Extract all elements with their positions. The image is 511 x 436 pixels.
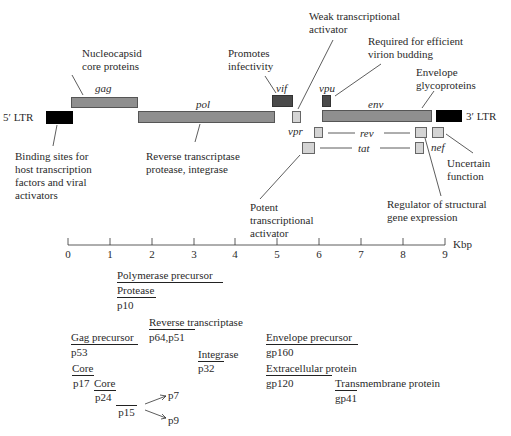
tick-6: 6 [313, 248, 325, 260]
envelope-precursor: Envelope precursor [266, 331, 358, 345]
tat-annotation: Potenttranscriptionalactivator [250, 201, 314, 240]
vpr-label: vpr [288, 125, 303, 138]
gp41: gp41 [335, 392, 357, 405]
vpr-annotation: Weak transcriptionalactivator [309, 10, 400, 36]
gp160: gp160 [266, 346, 294, 359]
pol-gene-box [138, 111, 275, 123]
core-p24-label: Core [94, 377, 116, 391]
tick-5: 5 [271, 248, 283, 260]
transmembrane-protein: Transmembrane protein [335, 377, 357, 391]
tick-8: 8 [397, 248, 409, 260]
tat-exon1-box [302, 142, 315, 154]
gag-label: gag [95, 82, 112, 95]
nef-label: nef [431, 141, 444, 154]
tat-exon2-box [415, 142, 424, 154]
p53: p53 [71, 346, 88, 359]
ltr5-box [46, 111, 73, 124]
p7: p7 [168, 389, 179, 402]
rev-exon2-box [415, 127, 427, 138]
tick-2: 2 [146, 248, 158, 260]
rev-label: rev [360, 127, 374, 140]
ltr3-box [436, 110, 462, 122]
p32: p32 [198, 362, 215, 375]
env-annotation: Envelopeglycoproteins [416, 66, 476, 92]
vpu-gene-box [322, 95, 331, 107]
gp120: gp120 [266, 377, 294, 390]
p10: p10 [117, 299, 134, 312]
vif-annotation: Promotesinfectivity [228, 47, 273, 73]
pol-label: pol [196, 98, 210, 111]
ltr3-label: 3′ LTR [466, 110, 496, 123]
nef-annotation: Uncertainfunction [447, 157, 490, 183]
rev-exon1-box [314, 127, 323, 138]
vif-label: vif [276, 82, 287, 95]
tick-4: 4 [229, 248, 241, 260]
p64-p51: p64,p51 [149, 331, 185, 344]
ltr-annotation: Binding sites forhost transcription fact… [15, 150, 92, 202]
tick-9: 9 [439, 248, 451, 260]
extracellular-protein: Extracellular protein [266, 362, 332, 376]
vpu-annotation: Required for efficientvirion budding [368, 35, 463, 61]
rev-annotation: Regulator of structuralgene expression [387, 198, 487, 224]
nef-gene-box [432, 127, 444, 138]
tick-1: 1 [104, 248, 116, 260]
p17: p17 [73, 377, 90, 390]
tick-7: 7 [355, 248, 367, 260]
axis-unit: Kbp [453, 238, 472, 251]
reverse-transcriptase: Reverse transcriptase [149, 316, 195, 330]
vif-gene-box [272, 95, 293, 107]
p9: p9 [168, 414, 179, 427]
gag-annotation: Nucleocapsidcore proteins [82, 47, 142, 73]
core-p17-label: Core [72, 362, 94, 376]
integrase: Integrase [198, 348, 224, 362]
env-gene-box [322, 110, 432, 122]
polymerase-precursor: Polymerase precursor [117, 269, 223, 283]
p24: p24 [95, 391, 112, 404]
gag-gene-box [71, 97, 138, 108]
gag-precursor: Gag precursor [71, 331, 138, 345]
tick-0: 0 [62, 248, 74, 260]
p15: p15 [116, 405, 137, 419]
protease: Protease [117, 284, 156, 298]
pol-annotation: Reverse transcriptaseprotease, integrase [146, 150, 240, 176]
vpr-gene-box [292, 111, 301, 123]
ltr5-label: 5′ LTR [3, 111, 33, 124]
tick-3: 3 [188, 248, 200, 260]
tat-label: tat [358, 142, 370, 155]
vpu-label: vpu [319, 82, 335, 95]
